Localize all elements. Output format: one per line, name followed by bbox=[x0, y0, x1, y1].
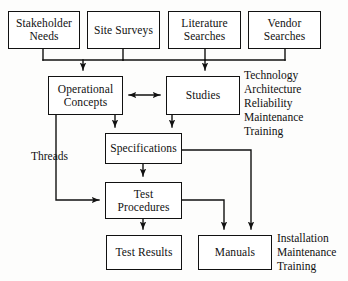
wire-testprocedures-to-manuals bbox=[182, 200, 224, 229]
node-manuals[interactable]: Manuals bbox=[198, 235, 272, 270]
node-label: Specifications bbox=[108, 142, 179, 155]
node-label: VendorSearches bbox=[262, 17, 308, 43]
wire-specifications-to-manuals bbox=[182, 150, 251, 229]
annotation-line: Technology bbox=[244, 68, 303, 82]
node-site-surveys[interactable]: Site Surveys bbox=[87, 11, 160, 49]
node-operational-concepts[interactable]: OperationalConcepts bbox=[48, 76, 123, 115]
annotation-line: Training bbox=[244, 124, 303, 138]
node-label: StakeholderNeeds bbox=[14, 17, 74, 43]
annotation-line: Architecture bbox=[244, 82, 303, 96]
annotation-line: Maintenance bbox=[277, 245, 336, 259]
node-test-results[interactable]: Test Results bbox=[106, 235, 182, 270]
node-label: LiteratureSearches bbox=[179, 17, 229, 43]
node-stakeholder-needs[interactable]: StakeholderNeeds bbox=[8, 11, 80, 49]
node-label: Studies bbox=[184, 89, 223, 102]
annotation-line: Installation bbox=[277, 231, 336, 245]
diagram-canvas: StakeholderNeeds Site Surveys Literature… bbox=[0, 0, 348, 281]
annotation-line: Training bbox=[277, 259, 336, 273]
annotation-manuals-attributes: Installation Maintenance Training bbox=[277, 231, 336, 273]
node-label: Test Results bbox=[114, 246, 175, 259]
node-specifications[interactable]: Specifications bbox=[105, 133, 182, 164]
node-label: TestProcedures bbox=[115, 188, 171, 214]
node-vendor-searches[interactable]: VendorSearches bbox=[248, 11, 321, 49]
annotation-line: Reliability bbox=[244, 96, 303, 110]
node-label: Site Surveys bbox=[92, 24, 155, 37]
annotation-line: Maintenance bbox=[244, 110, 303, 124]
node-label: OperationalConcepts bbox=[56, 83, 115, 109]
edge-label-threads: Threads bbox=[31, 150, 68, 162]
node-test-procedures[interactable]: TestProcedures bbox=[105, 182, 182, 219]
annotation-studies-attributes: Technology Architecture Reliability Main… bbox=[244, 68, 303, 138]
node-label: Manuals bbox=[213, 246, 257, 259]
node-literature-searches[interactable]: LiteratureSearches bbox=[168, 11, 241, 49]
node-studies[interactable]: Studies bbox=[166, 76, 240, 115]
